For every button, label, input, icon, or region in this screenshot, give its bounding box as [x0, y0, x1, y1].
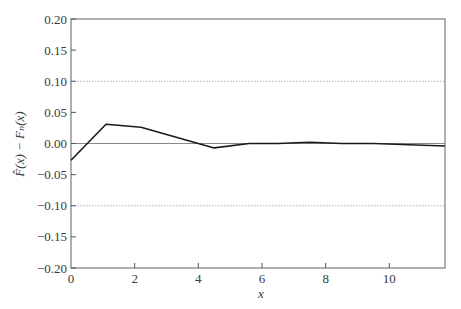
x-tick-label: 10: [383, 271, 396, 286]
y-axis-label: F̂(x) − Fₙ(x): [12, 111, 27, 177]
y-axis-ticks: 0.200.150.100.050.00−0.05−0.10−0.15−0.20: [37, 12, 76, 276]
x-tick-label: 8: [322, 271, 329, 286]
y-tick-label: 0.00: [44, 136, 67, 151]
y-tick-label: 0.20: [44, 12, 67, 27]
y-tick-label: −0.20: [37, 261, 67, 276]
y-tick-label: −0.05: [37, 167, 67, 182]
x-tick-label: 4: [195, 271, 202, 286]
chart: 0246810 0.200.150.100.050.00−0.05−0.10−0…: [0, 0, 461, 309]
y-tick-label: −0.15: [37, 229, 67, 244]
data-series: [71, 124, 445, 160]
x-tick-label: 0: [68, 271, 75, 286]
y-tick-label: 0.05: [44, 105, 67, 120]
y-tick-label: 0.15: [44, 43, 67, 58]
y-tick-label: −0.10: [37, 198, 67, 213]
series-line: [71, 124, 445, 160]
x-axis-label: x: [257, 286, 264, 301]
y-tick-label: 0.10: [44, 74, 67, 89]
x-tick-label: 6: [259, 271, 266, 286]
x-tick-label: 2: [131, 271, 138, 286]
x-axis-ticks: 0246810: [68, 263, 396, 286]
